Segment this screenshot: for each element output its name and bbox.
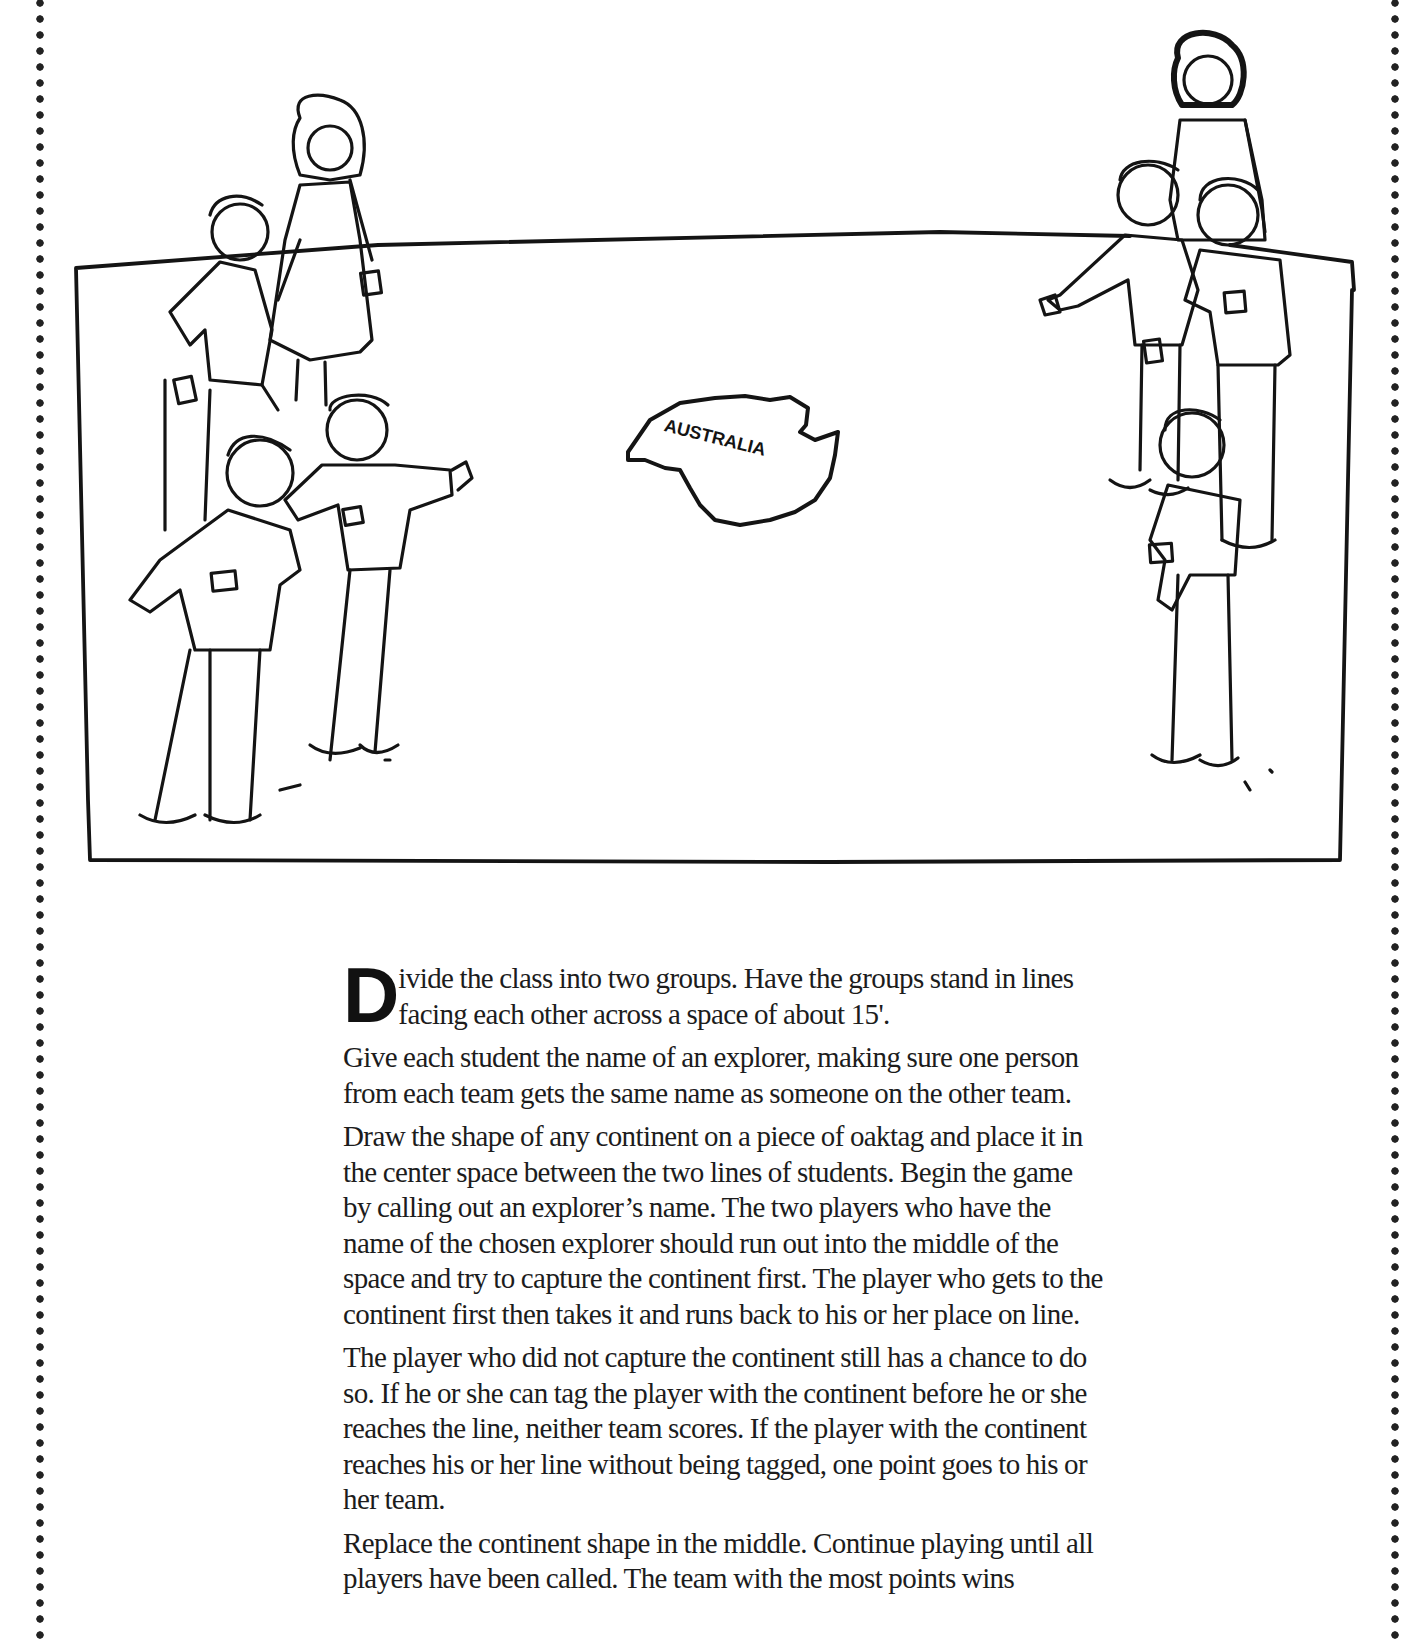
instruction-paragraph-3: Draw the shape of any continent on a pie… xyxy=(343,1119,1103,1332)
continent-cutout: AUSTRALIA xyxy=(628,396,838,525)
left-team xyxy=(130,95,472,822)
paragraph-text: ivide the class into two groups. Have th… xyxy=(398,962,1073,1030)
right-team xyxy=(1040,33,1290,790)
continent-label: AUSTRALIA xyxy=(662,415,768,460)
game-illustration: AUSTRALIA xyxy=(0,0,1423,880)
playing-field-frame xyxy=(76,232,1354,862)
instructions: Divide the class into two groups. Have t… xyxy=(343,937,1103,1605)
instruction-paragraph-5: Replace the continent shape in the middl… xyxy=(343,1526,1103,1597)
instruction-paragraph-2: Give each student the name of an explore… xyxy=(343,1040,1103,1111)
drop-cap: D xyxy=(343,963,396,1023)
instruction-paragraph-1: Divide the class into two groups. Have t… xyxy=(343,937,1103,1032)
instruction-paragraph-4: The player who did not capture the conti… xyxy=(343,1340,1103,1518)
